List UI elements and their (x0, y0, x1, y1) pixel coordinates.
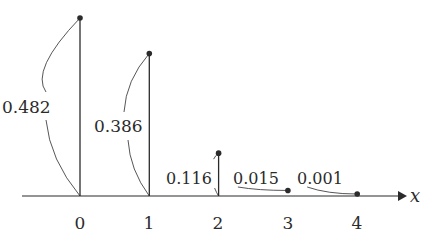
value-label: 0.386 (94, 116, 143, 136)
value-labels: 0.482 0.386 0.116 0.015 0.001 (2, 97, 343, 188)
brace-arc (307, 187, 357, 194)
x-tick-label: 4 (352, 213, 363, 233)
x-axis-arrow-icon (398, 191, 407, 201)
value-label: 0.482 (2, 97, 51, 117)
x-tick-labels: 0 1 2 3 4 (75, 213, 363, 233)
x-axis-label: x (410, 185, 420, 206)
brace-arc (124, 53, 149, 112)
value-label: 0.001 (297, 169, 343, 188)
x-tick-label: 3 (283, 213, 294, 233)
probability-stem-chart: x 0 1 2 3 4 0.482 0.386 0.116 0.015 0.00… (0, 0, 434, 249)
value-label: 0.116 (166, 169, 212, 188)
brace-arc (46, 120, 80, 196)
x-tick-label: 2 (213, 213, 224, 233)
brace-arc (42, 18, 80, 92)
value-label: 0.015 (233, 169, 279, 188)
x-tick-label: 1 (144, 213, 155, 233)
x-tick-label: 0 (75, 213, 86, 233)
brace-arc (128, 140, 149, 196)
